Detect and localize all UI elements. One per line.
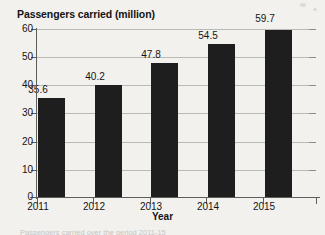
figure-caption: Passengers carried over the period 2011-… (20, 228, 320, 235)
bar-2015[interactable] (265, 30, 292, 198)
scan-speckle (300, 3, 306, 7)
right-tick-30 (309, 113, 316, 114)
y-tick-label-60: 60 (3, 23, 33, 34)
y-tick-label-40: 40 (3, 79, 33, 90)
bar-value-label-2014: 54.5 (185, 30, 231, 41)
right-tick-10 (309, 170, 316, 171)
right-tick-20 (309, 142, 316, 143)
x-axis-title: Year (0, 211, 325, 222)
bar-2014[interactable] (208, 44, 235, 198)
scan-speckle (313, 8, 317, 11)
bar-2011[interactable] (38, 98, 65, 198)
y-tick-label-20: 20 (3, 136, 33, 147)
bar-value-label-2012: 40.2 (72, 71, 118, 82)
y-tick-label-10: 10 (3, 164, 33, 175)
bar-value-label-2013: 47.8 (128, 49, 174, 60)
bar-value-label-2015: 59.7 (242, 13, 288, 24)
chart-title: Passengers carried (million) (17, 8, 155, 20)
right-tick-40 (309, 85, 316, 86)
bar-2012[interactable] (95, 85, 122, 198)
x-axis-line (30, 197, 320, 198)
plot-area (37, 29, 315, 198)
bar-2013[interactable] (151, 63, 178, 198)
x-tick-mark-right (316, 198, 317, 204)
y-tick-label-30: 30 (3, 107, 33, 118)
right-tick-60 (309, 29, 316, 30)
bar-chart-figure: Passengers carried (million) 35.6 40.2 4… (0, 0, 325, 235)
right-tick-50 (309, 57, 316, 58)
y-tick-label-50: 50 (3, 51, 33, 62)
